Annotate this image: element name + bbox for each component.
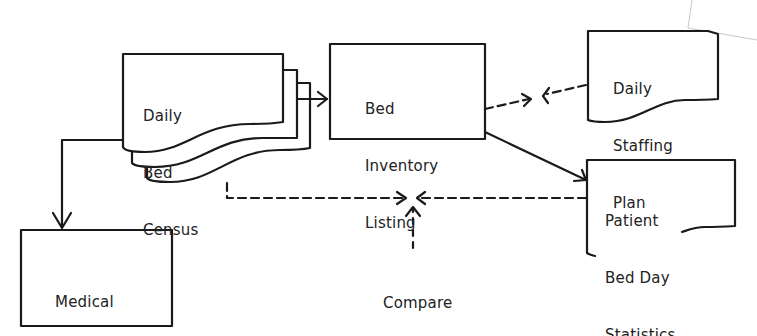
census-line-3: Census	[143, 221, 199, 240]
patient-bed-day-statistics-label: Patient Bed Day Statistics (census repor…	[605, 174, 738, 336]
compare-text: Compare	[383, 294, 452, 313]
edge-inventory-to-statistics	[485, 132, 586, 180]
census-line-1: Daily	[143, 107, 199, 126]
staffing-line-2: Staffing	[613, 137, 673, 156]
staffing-line-1: Daily	[613, 80, 673, 99]
statistics-line-2: Bed Day	[605, 269, 738, 288]
medical-records-label: Medical Records	[55, 255, 116, 336]
compare-label: Compare	[383, 256, 452, 332]
census-line-2: Bed	[143, 164, 199, 183]
edge-inventory-to-staffing	[485, 99, 529, 109]
daily-bed-census-label: Daily Bed Census	[143, 69, 199, 259]
inventory-line-1: Bed	[365, 100, 438, 119]
edge-staffing-to-inventory	[547, 85, 586, 94]
medical-line-1: Medical	[55, 293, 116, 312]
arrowhead-staffing-right	[543, 88, 549, 103]
inventory-line-2: Inventory	[365, 157, 438, 176]
statistics-line-1: Patient	[605, 212, 738, 231]
inventory-line-3: Listing	[365, 214, 438, 233]
statistics-line-3: Statistics	[605, 326, 738, 336]
bed-inventory-listing-label: Bed Inventory Listing	[365, 62, 438, 252]
